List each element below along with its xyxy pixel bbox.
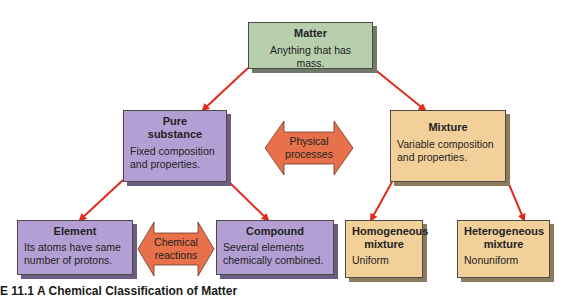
double-arrow-chemical-reactions: Chemical reactions [137,221,215,277]
node-desc: Several elements chemically combined. [223,241,327,267]
node-desc: Uniform [352,254,416,267]
node-title: Compound [223,225,327,238]
arrow-label: Chemical reactions [137,236,215,262]
node-title: Element [24,225,126,238]
double-arrow-physical-processes: Physical processes [264,120,354,176]
node-title: Mixture [397,121,499,134]
node-homogeneous-mixture: Homogeneous mixture Uniform [345,220,423,278]
node-title: Heterogeneous mixture [464,225,543,251]
node-title: Matter [255,27,366,40]
node-heterogeneous-mixture: Heterogeneous mixture Nonuniform [457,220,550,278]
arrow-label: Physical processes [264,135,354,161]
node-pure-substance: Pure substance Fixed composition and pro… [123,110,227,182]
node-matter: Matter Anything that has mass. [248,22,373,69]
figure-caption: E 11.1 A Chemical Classification of Matt… [0,284,237,297]
node-title: Pure substance [130,115,220,141]
node-desc: Its atoms have same number of protons. [24,241,126,267]
node-title: Homogeneous mixture [352,225,416,251]
node-desc: Variable composition and properties. [397,138,499,164]
node-desc: Anything that has mass. [255,44,366,70]
node-desc: Nonuniform [464,254,543,267]
node-element: Element Its atoms have same number of pr… [17,220,133,275]
node-mixture: Mixture Variable composition and propert… [390,110,506,182]
node-compound: Compound Several elements chemically com… [216,220,334,275]
node-desc: Fixed composition and properties. [130,145,220,171]
